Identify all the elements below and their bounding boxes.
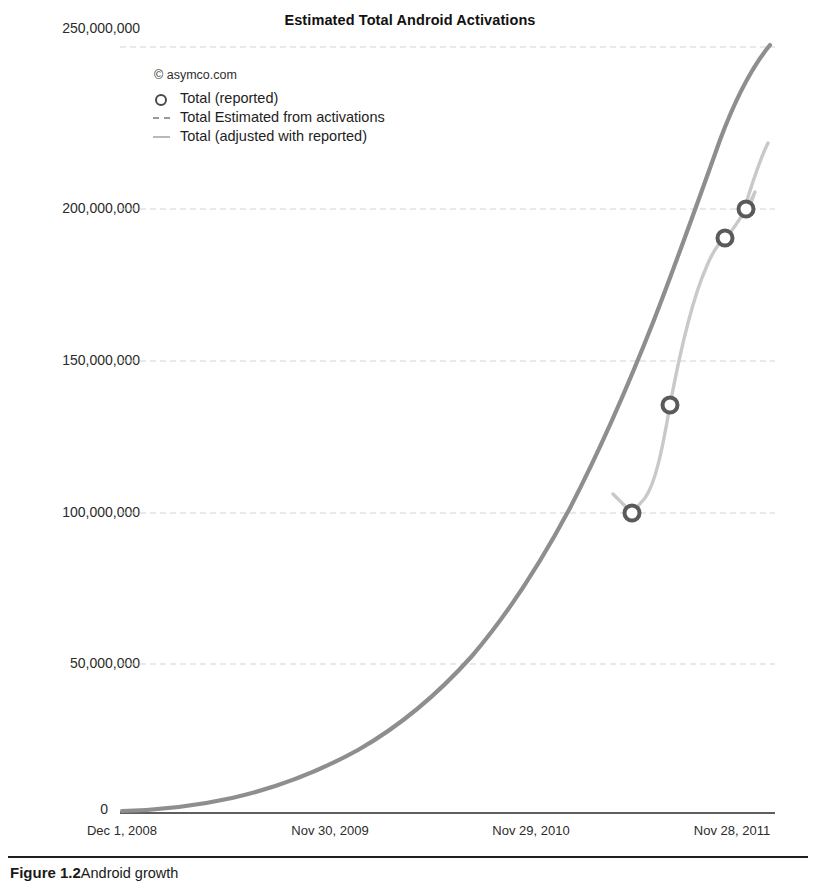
- legend-item-reported[interactable]: Total (reported): [152, 89, 482, 108]
- figure-caption: Figure 1.2Android growth: [10, 864, 810, 881]
- data-point-188m: [718, 231, 733, 246]
- data-point-134m: [663, 398, 678, 413]
- chart-legend: © asymco.com Total (reported) Total Esti…: [152, 68, 482, 146]
- series-adjusted-line: [613, 143, 768, 513]
- solid-line-icon: [152, 129, 174, 145]
- data-point-200m: [739, 202, 754, 217]
- dashed-line-icon: [152, 110, 174, 126]
- data-point-100m: [625, 506, 640, 521]
- legend-item-adjusted[interactable]: Total (adjusted with reported): [152, 127, 482, 146]
- credit-watermark: © asymco.com: [154, 68, 482, 82]
- series-estimated-line: [122, 45, 770, 811]
- legend-label-adjusted: Total (adjusted with reported): [180, 127, 367, 146]
- figure-caption-text: Android growth: [81, 865, 179, 881]
- circle-outline-icon: [152, 91, 174, 107]
- figure-caption-label: Figure 1.2: [10, 864, 81, 881]
- figure-root: Estimated Total Android Activations 250,…: [0, 0, 820, 881]
- caption-divider: [8, 856, 808, 858]
- legend-label-estimated: Total Estimated from activations: [180, 108, 385, 127]
- legend-label-reported: Total (reported): [180, 89, 278, 108]
- legend-item-estimated[interactable]: Total Estimated from activations: [152, 108, 482, 127]
